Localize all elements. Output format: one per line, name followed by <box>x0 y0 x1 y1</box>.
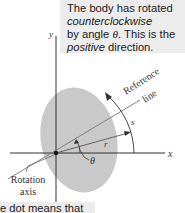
arc-arrowhead <box>105 92 112 101</box>
callout-positive-direction: The body has rotated counterclockwise by… <box>60 0 185 53</box>
callout-line-4-post: direction. <box>105 41 154 53</box>
callout-line-4: positive direction. <box>67 41 185 54</box>
callout-dot-meaning: e dot means that <box>0 202 95 213</box>
callout-line-3: by angle θ. This is the <box>67 28 185 41</box>
rigid-body <box>31 80 127 199</box>
callout-line-3-post: . This is the <box>118 28 175 40</box>
callout-line-2: counterclockwise <box>67 15 185 28</box>
callout-counterclockwise: counterclockwise <box>67 15 152 27</box>
callout-positive: positive <box>67 41 105 53</box>
callout-bottom-text: e dot means that <box>0 202 83 213</box>
callout-line-1: The body has rotated <box>67 2 185 15</box>
callout-line-3-pre: by angle <box>67 28 112 40</box>
x-axis-label: x <box>167 148 173 159</box>
arc-s-label: s <box>131 117 135 127</box>
theta-label: θ <box>90 155 95 166</box>
radius-label: r <box>104 139 108 149</box>
reference-label-2: line <box>140 87 159 105</box>
radius-arrowhead <box>124 131 131 136</box>
rotation-axis-label-1: Rotation <box>11 174 45 185</box>
origin-dot <box>54 151 58 155</box>
rotation-axis-label-2: axis <box>20 186 36 197</box>
y-axis-label: y <box>48 29 53 39</box>
